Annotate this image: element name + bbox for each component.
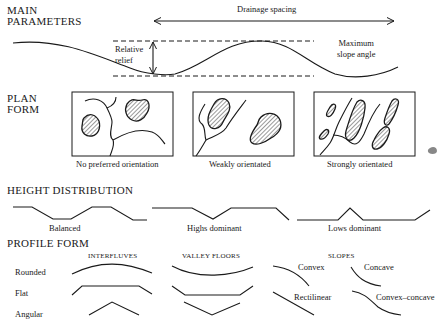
column-header-valley-floors: VALLEY FLOORS <box>182 252 240 260</box>
column-header-slopes: SLOPES <box>328 252 355 260</box>
column-header-interfluves: INTERFLUVES <box>88 252 137 260</box>
drainage-channel <box>113 131 165 144</box>
upland-patch <box>319 130 328 140</box>
drainage-spacing-label: Drainage spacing <box>237 4 296 14</box>
valley-floor-rounded <box>172 266 253 275</box>
main-parameters-heading: MAIN PARAMETERS <box>7 5 82 27</box>
row-label-rounded: Rounded <box>15 267 46 277</box>
height-distribution-heading: HEIGHT DISTRIBUTION <box>7 185 133 196</box>
label-line: Relative <box>115 44 143 55</box>
interfluve-flat <box>72 286 152 295</box>
profile-form-heading: PROFILE FORM <box>7 238 89 249</box>
drainage-channel <box>196 104 206 156</box>
height-caption-lows-dominant: Lows dominant <box>328 223 381 233</box>
interfluve-angular <box>89 302 139 315</box>
upland-patch <box>384 99 398 125</box>
upland-patch <box>250 113 281 144</box>
label-line: slope angle <box>337 49 375 60</box>
valley-floor-angular <box>184 302 240 315</box>
height-caption-balanced: Balanced <box>49 223 81 233</box>
upland-patch <box>326 104 335 116</box>
interfluve-rounded <box>72 264 152 274</box>
upland-patch <box>126 100 149 121</box>
upland-patch <box>372 127 389 149</box>
slope-label-concave: Concave <box>364 262 394 272</box>
row-label-flat: Flat <box>15 288 28 298</box>
slope-label-rectilinear: Rectilinear <box>294 292 331 302</box>
plan-caption-no-orientation: No preferred orientation <box>76 159 159 169</box>
slope-label-convex-concave: Convex–concave <box>376 292 435 302</box>
upland-patch <box>82 115 100 136</box>
upland-patch <box>346 100 366 140</box>
height-profile-balanced <box>13 207 147 220</box>
row-label-angular: Angular <box>15 309 43 319</box>
plan-caption-strongly-orientated: Strongly orientated <box>327 159 392 169</box>
max-slope-angle-label: Maximum slope angle <box>337 38 375 60</box>
height-caption-highs-dominant: Highs dominant <box>187 223 242 233</box>
plan-caption-weakly-orientated: Weakly orientated <box>209 159 271 169</box>
heading-line: PARAMETERS <box>7 16 82 27</box>
label-line: Maximum <box>337 38 375 49</box>
valley-floor-flat <box>172 286 253 295</box>
plan-form-heading: PLAN FORM <box>7 93 39 115</box>
page-smudge <box>428 147 437 154</box>
slope-label-convex: Convex <box>298 262 324 272</box>
relative-relief-label: Relative relief <box>115 44 143 66</box>
heading-line: FORM <box>7 104 39 115</box>
height-profile-lows-dominant <box>297 208 430 220</box>
upland-patch <box>208 99 230 129</box>
height-profile-highs-dominant <box>152 208 289 220</box>
drainage-channel <box>107 97 116 108</box>
label-line: relief <box>115 55 143 66</box>
